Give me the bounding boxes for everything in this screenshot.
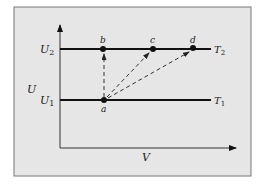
point-label-a: a xyxy=(101,104,106,114)
energy-volume-diagram: U V U2 T2 U1 T1 a b c d xyxy=(0,0,263,191)
point-a xyxy=(101,97,107,103)
point-label-b: b xyxy=(100,35,106,45)
point-c xyxy=(150,46,156,52)
point-label-c: c xyxy=(150,35,155,45)
point-b xyxy=(100,46,106,52)
point-d xyxy=(190,45,196,51)
y-axis-label: U xyxy=(27,83,37,96)
diagram-panel xyxy=(14,7,251,176)
point-label-d: d xyxy=(190,35,196,45)
x-axis-label: V xyxy=(142,151,151,164)
